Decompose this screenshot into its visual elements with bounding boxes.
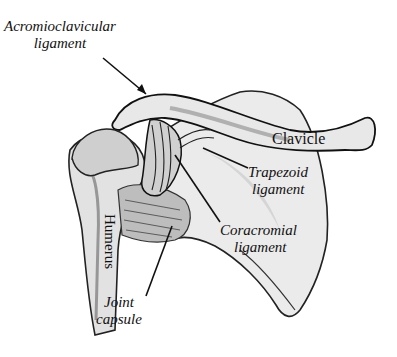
label-acromioclavicular-line1: Acromioclavicular (4, 18, 116, 35)
label-joint-capsule: Joint capsule (96, 294, 142, 328)
label-joint-capsule-line1: Joint (96, 294, 142, 311)
label-clavicle: Clavicle (272, 130, 325, 147)
label-coracromial-line2: ligament (220, 239, 297, 256)
label-coracromial-line1: Coracromial (220, 222, 297, 239)
label-acromioclavicular-line2: ligament (4, 35, 116, 52)
label-trapezoid-line2: ligament (248, 181, 308, 198)
label-coracromial: Coracromial ligament (220, 222, 297, 256)
label-trapezoid: Trapezoid ligament (248, 164, 308, 198)
arrowhead-icon (137, 84, 146, 94)
label-trapezoid-line1: Trapezoid (248, 164, 308, 181)
label-humerus: Humerus (101, 214, 118, 269)
label-acromioclavicular: Acromioclavicular ligament (4, 18, 116, 52)
label-joint-capsule-line2: capsule (96, 311, 142, 328)
shoulder-illustration (0, 0, 397, 357)
